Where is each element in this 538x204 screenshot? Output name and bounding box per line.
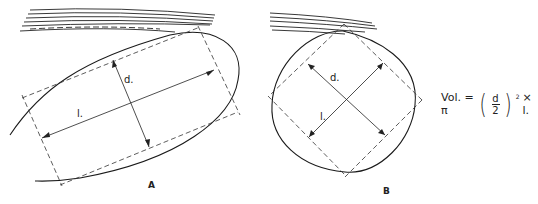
dashed-box-a-bottom [60,112,238,185]
length-label-a: l. [77,108,83,119]
fiber-bundle-b [270,13,377,34]
length-label-b: l. [320,111,326,122]
arrowhead-a-right [206,70,214,76]
fiber-bundle-a [20,9,215,32]
cell-outline-a [10,32,239,181]
fraction-denominator: 2 [492,105,498,116]
cell-outline-b [272,31,415,172]
arrowhead-a-left [42,132,50,138]
formula-suffix: × l. [523,91,538,117]
volume-formula: Vol. = π ( d 2 ) 2 × l. [441,91,538,117]
fraction-numerator: d [492,93,498,104]
left-paren: ( [480,91,487,117]
right-paren: ) [504,91,511,117]
formula-exponent: 2 [516,93,520,100]
caption-a: A [148,180,155,190]
figure-b: d. l. B [268,24,424,196]
fraction: d 2 [492,93,500,116]
dashed-box-a-top [22,27,200,98]
formula-prefix: Vol. = π [441,91,475,117]
dashed-box-a-right [198,26,240,115]
dashed-box-a-left [22,95,62,186]
length-arrow-b [309,63,383,137]
figure-a: d. l. A [10,26,240,190]
diameter-label-b: d. [330,72,340,83]
caption-b: B [383,186,390,196]
diameter-label-a: d. [124,74,134,85]
